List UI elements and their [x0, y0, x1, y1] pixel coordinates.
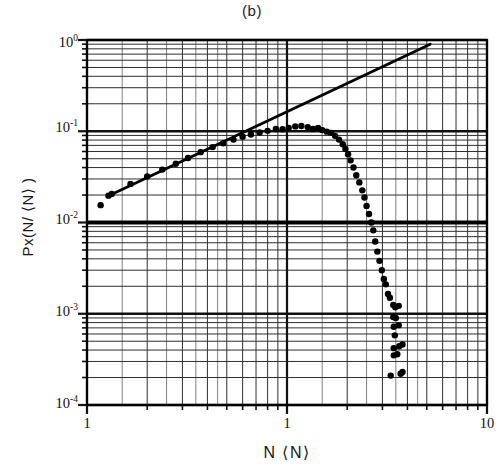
data-point: [109, 191, 115, 197]
data-point: [286, 125, 292, 131]
data-point: [209, 144, 215, 150]
data-point: [127, 181, 133, 187]
data-point: [97, 202, 103, 208]
data-point: [356, 179, 362, 185]
data-point: [366, 211, 372, 217]
data-point: [394, 351, 400, 357]
data-point: [392, 332, 398, 338]
data-point: [230, 136, 236, 142]
data-point: [383, 281, 389, 287]
data-point: [197, 149, 203, 155]
data-point: [374, 248, 380, 254]
data-point: [399, 341, 405, 347]
plot-svg: [0, 0, 504, 472]
figure-container: (b) 100 10-1 10-2 10-3 10-4 1 1 10 N ⟨N⟩…: [0, 0, 504, 472]
data-point: [359, 187, 365, 193]
data-point: [347, 157, 353, 163]
data-point: [248, 131, 254, 137]
data-point: [173, 161, 179, 167]
data-point: [368, 219, 374, 225]
data-point: [399, 369, 405, 375]
data-point: [361, 194, 367, 200]
data-point: [370, 227, 376, 233]
data-point: [256, 129, 262, 135]
data-point: [393, 315, 399, 321]
data-point: [372, 238, 378, 244]
data-point: [273, 126, 279, 132]
data-point: [363, 203, 369, 209]
data-point: [396, 303, 402, 309]
data-point: [376, 258, 382, 264]
data-point: [159, 166, 165, 172]
data-point: [298, 123, 304, 129]
data-point: [388, 372, 394, 378]
data-point: [350, 164, 356, 170]
data-point: [220, 140, 226, 146]
data-point: [396, 322, 402, 328]
data-point: [239, 134, 245, 140]
data-point-markers: [97, 123, 405, 379]
data-point: [379, 267, 385, 273]
data-point: [185, 155, 191, 161]
data-point: [264, 128, 270, 134]
data-point: [279, 126, 285, 132]
data-point: [144, 173, 150, 179]
data-point: [345, 151, 351, 157]
data-point: [387, 294, 393, 300]
data-point: [292, 123, 298, 129]
data-point: [353, 172, 359, 178]
